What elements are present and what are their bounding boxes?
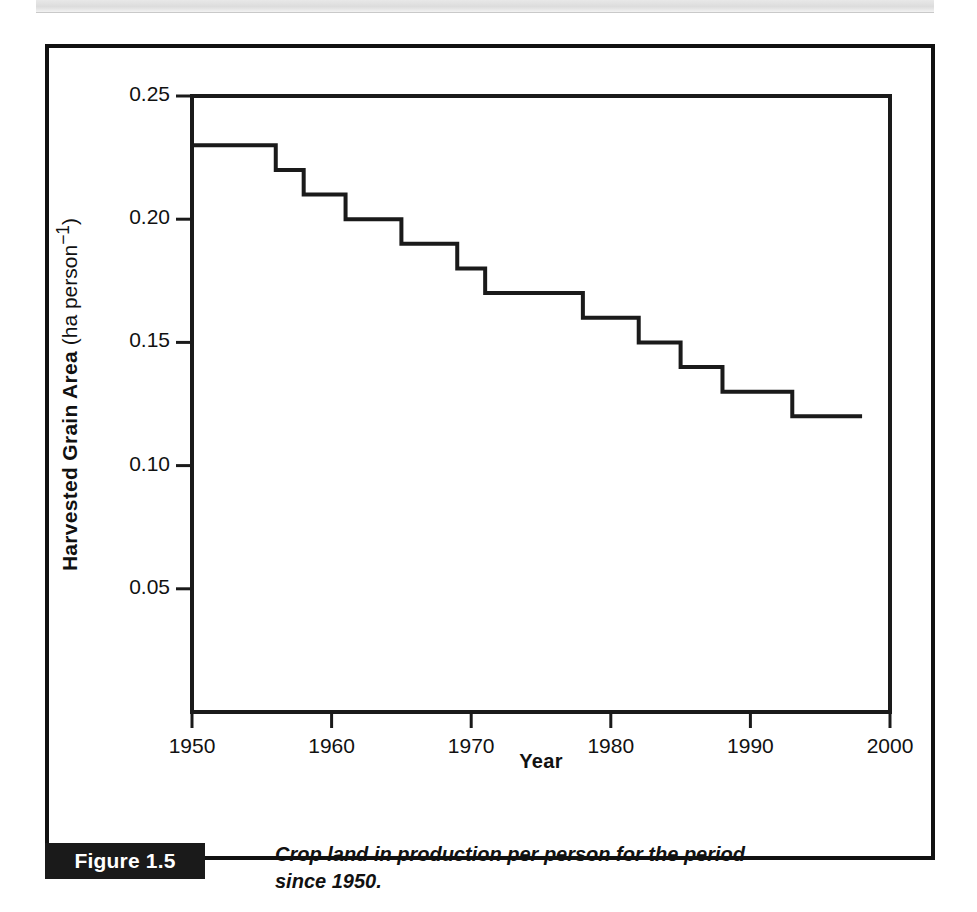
y-tick-label: 0.25 — [80, 82, 170, 106]
y-tick-label: 0.15 — [80, 328, 170, 352]
y-axis-unit-close: ) — [58, 218, 81, 225]
figure-caption-row: Figure 1.5 Crop land in production per p… — [45, 843, 935, 909]
y-axis-unit-exponent: −1 — [53, 225, 73, 245]
y-tick-label: 0.05 — [80, 575, 170, 599]
figure-number-badge: Figure 1.5 — [45, 843, 205, 879]
figure-caption-text: Crop land in production per person for t… — [275, 841, 795, 895]
y-tick-label: 0.20 — [80, 205, 170, 229]
y-axis-title: Harvested Grain Area (ha person−1) — [53, 135, 82, 655]
scan-artifact-strip — [36, 0, 934, 13]
y-axis-title-main: Harvested Grain Area — [58, 351, 81, 571]
x-axis-title: Year — [192, 750, 890, 773]
y-axis-unit-open: (ha person — [58, 245, 81, 345]
y-tick-label: 0.10 — [80, 452, 170, 476]
